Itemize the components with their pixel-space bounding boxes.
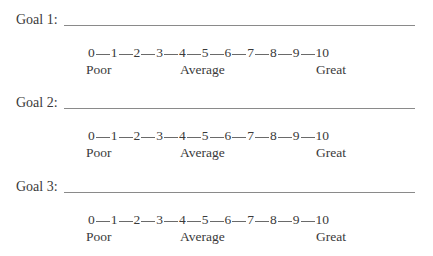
scale-dash (187, 54, 201, 55)
scale-dash (255, 221, 269, 222)
scale-value-5[interactable]: 5 (202, 45, 209, 61)
scale-dash (301, 137, 315, 138)
scale-value-6[interactable]: 6 (225, 212, 232, 228)
scale-dash (210, 54, 224, 55)
anchor-poor: Poor (86, 229, 112, 245)
scale-dash (187, 137, 201, 138)
scale-dash (96, 137, 110, 138)
scale-value-9[interactable]: 9 (293, 212, 300, 228)
scale-dash (141, 221, 155, 222)
scale-value-1[interactable]: 1 (111, 128, 118, 144)
goal-3-section: Goal 3:012345678910PoorAverageGreat (0, 179, 433, 256)
scale-dash (232, 54, 246, 55)
scale-value-3[interactable]: 3 (156, 45, 163, 61)
anchor-great: Great (316, 62, 346, 78)
scale-dash (210, 137, 224, 138)
scale-value-4[interactable]: 4 (179, 45, 186, 61)
scale-anchors: PoorAverageGreat (0, 62, 433, 78)
scale-dash (255, 137, 269, 138)
scale-dash (96, 221, 110, 222)
scale-value-0[interactable]: 0 (88, 45, 95, 61)
scale-dash (278, 137, 292, 138)
scale-value-4[interactable]: 4 (179, 212, 186, 228)
goal-2-blank-line[interactable] (64, 108, 415, 109)
scale-value-5[interactable]: 5 (202, 212, 209, 228)
scale-value-2[interactable]: 2 (134, 45, 141, 61)
scale-value-9[interactable]: 9 (293, 128, 300, 144)
scale-dash (141, 137, 155, 138)
scale-dash (278, 221, 292, 222)
scale-value-10[interactable]: 10 (316, 45, 330, 61)
scale-value-9[interactable]: 9 (293, 45, 300, 61)
scale-dash (141, 54, 155, 55)
anchor-average: Average (180, 145, 225, 161)
scale-value-5[interactable]: 5 (202, 128, 209, 144)
scale-anchors: PoorAverageGreat (0, 145, 433, 161)
goal-3-blank-line[interactable] (64, 192, 415, 193)
scale-value-4[interactable]: 4 (179, 128, 186, 144)
rating-scale: 012345678910 (88, 45, 329, 61)
rating-scale: 012345678910 (88, 128, 329, 144)
goal-label: Goal 1: (16, 12, 58, 28)
goal-2-section: Goal 2:012345678910PoorAverageGreat (0, 95, 433, 179)
scale-value-7[interactable]: 7 (247, 128, 254, 144)
anchor-average: Average (180, 62, 225, 78)
scale-value-3[interactable]: 3 (156, 212, 163, 228)
scale-dash (278, 54, 292, 55)
anchor-poor: Poor (86, 145, 112, 161)
scale-dash (96, 54, 110, 55)
anchor-great: Great (316, 229, 346, 245)
scale-value-0[interactable]: 0 (88, 128, 95, 144)
scale-value-8[interactable]: 8 (270, 128, 277, 144)
scale-value-2[interactable]: 2 (134, 128, 141, 144)
goal-1-blank-line[interactable] (64, 25, 415, 26)
scale-dash (119, 54, 133, 55)
goal-label: Goal 2: (16, 95, 58, 111)
scale-value-7[interactable]: 7 (247, 212, 254, 228)
scale-dash (232, 221, 246, 222)
scale-value-6[interactable]: 6 (225, 128, 232, 144)
scale-dash (119, 221, 133, 222)
scale-dash (164, 221, 178, 222)
scale-value-7[interactable]: 7 (247, 45, 254, 61)
scale-dash (301, 221, 315, 222)
goal-1-section: Goal 1:012345678910PoorAverageGreat (0, 12, 433, 96)
scale-value-8[interactable]: 8 (270, 212, 277, 228)
scale-value-10[interactable]: 10 (316, 128, 330, 144)
anchor-great: Great (316, 145, 346, 161)
scale-value-2[interactable]: 2 (134, 212, 141, 228)
scale-dash (164, 54, 178, 55)
rating-scale: 012345678910 (88, 212, 329, 228)
scale-dash (119, 137, 133, 138)
scale-value-1[interactable]: 1 (111, 45, 118, 61)
scale-anchors: PoorAverageGreat (0, 229, 433, 245)
scale-dash (164, 137, 178, 138)
scale-dash (210, 221, 224, 222)
goal-label: Goal 3: (16, 179, 58, 195)
scale-dash (232, 137, 246, 138)
anchor-poor: Poor (86, 62, 112, 78)
scale-dash (301, 54, 315, 55)
scale-dash (187, 221, 201, 222)
scale-value-6[interactable]: 6 (225, 45, 232, 61)
scale-value-1[interactable]: 1 (111, 212, 118, 228)
scale-dash (255, 54, 269, 55)
anchor-average: Average (180, 229, 225, 245)
scale-value-3[interactable]: 3 (156, 128, 163, 144)
scale-value-0[interactable]: 0 (88, 212, 95, 228)
scale-value-8[interactable]: 8 (270, 45, 277, 61)
scale-value-10[interactable]: 10 (316, 212, 330, 228)
